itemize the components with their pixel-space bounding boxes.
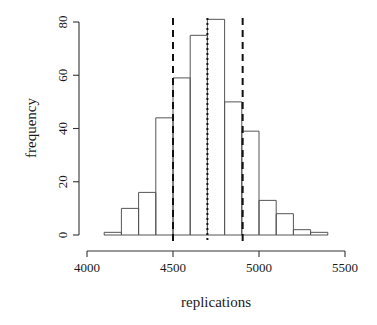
y-tick-label-20: 20 (55, 175, 70, 188)
x-axis-title: replications (181, 294, 251, 310)
histogram-plot: 80 60 40 20 0 frequency 4000 4500 5000 5… (0, 0, 377, 325)
x-tick-label-5500: 5500 (332, 260, 358, 275)
histogram-bar (293, 230, 310, 235)
histogram-bar (242, 131, 259, 235)
y-tick-label-40: 40 (55, 122, 70, 135)
histogram-figure: 80 60 40 20 0 frequency 4000 4500 5000 5… (0, 0, 377, 325)
histogram-bar (225, 102, 242, 235)
y-tick-label-60: 60 (55, 69, 70, 82)
x-tick-label-4500: 4500 (160, 260, 186, 275)
y-axis: 80 60 40 20 0 frequency (23, 16, 79, 239)
histogram-bar (173, 78, 190, 235)
x-tick-label-5000: 5000 (246, 260, 272, 275)
y-axis-title: frequency (23, 98, 39, 158)
histogram-bar (207, 19, 224, 235)
x-tick-label-4000: 4000 (74, 260, 100, 275)
histogram-bar (276, 214, 293, 235)
histogram-bar (156, 118, 173, 235)
histogram-bars (104, 19, 328, 235)
histogram-bar (190, 35, 207, 235)
x-axis: 4000 4500 5000 5500 replications (74, 251, 358, 310)
histogram-bar (139, 192, 156, 235)
histogram-bar (121, 208, 138, 235)
y-tick-label-0: 0 (55, 232, 70, 239)
histogram-bar (259, 200, 276, 235)
y-tick-label-80: 80 (55, 16, 70, 29)
